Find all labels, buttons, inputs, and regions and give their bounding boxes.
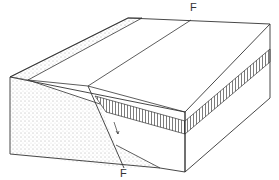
fault-label-bottom: F [120,168,127,179]
block-diagram [0,0,279,180]
slip-arrow [114,122,118,134]
fault-label-top: F [190,2,197,13]
